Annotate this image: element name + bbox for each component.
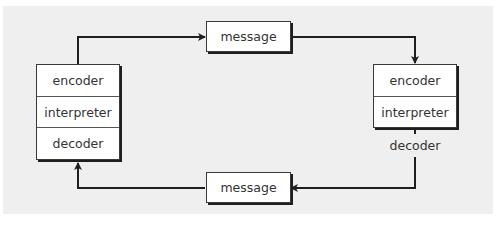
receiver-box: encoder interpreter (373, 64, 457, 128)
arrow-bottom-message-to-sender (78, 163, 205, 188)
sender-box: encoder interpreter decoder (36, 64, 120, 160)
arrow-sender-to-top-message (78, 37, 205, 64)
arrow-top-message-to-receiver (291, 37, 415, 63)
arrow-receiver-to-bottom-message (291, 157, 415, 188)
top-message-label: message (207, 22, 290, 51)
receiver-decoder-label: decoder (385, 138, 445, 153)
bottom-message-label: message (207, 173, 290, 202)
sender-decoder: decoder (37, 127, 119, 159)
bottom-message-box: message (206, 172, 291, 203)
top-message-box: message (206, 21, 291, 52)
receiver-encoder: encoder (374, 65, 456, 96)
sender-interpreter: interpreter (37, 96, 119, 127)
receiver-interpreter: interpreter (374, 96, 456, 127)
sender-encoder: encoder (37, 65, 119, 96)
